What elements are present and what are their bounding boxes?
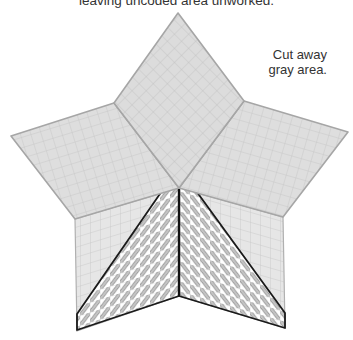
star-diagram — [0, 0, 353, 340]
